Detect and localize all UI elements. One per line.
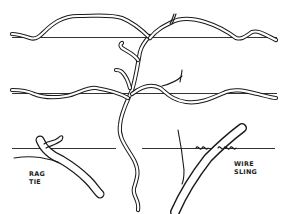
rag-tie-detail — [14, 136, 100, 194]
wire-sling-label: WIRE SLING — [234, 161, 257, 176]
rag-tie-label: RAG TIE — [29, 171, 45, 186]
wire-sling-detail — [175, 128, 242, 212]
wire-sling-label-line2: SLING — [234, 169, 257, 177]
main-vine — [12, 14, 276, 210]
rag-tie-label-line2: TIE — [29, 179, 45, 187]
